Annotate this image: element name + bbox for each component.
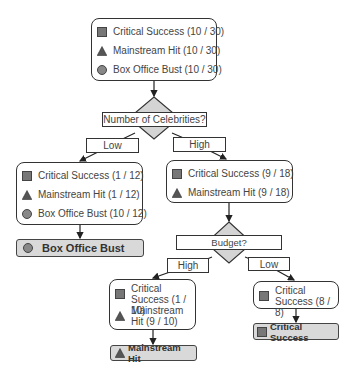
root-row-mainstream-hit: Mainstream Hit (10 / 30) <box>97 45 220 56</box>
leaf-mainstream-hit: Mainstream Hit <box>110 345 197 361</box>
triangle-icon <box>97 46 107 56</box>
square-icon <box>22 171 32 181</box>
budget-low-node: Critical Success (8 / 8) <box>253 281 339 309</box>
low-critical-success-text: Critical Success (1 / 12) <box>38 170 144 181</box>
low-celebrities-node: Critical Success (1 / 12) Mainstream Hit… <box>16 162 143 225</box>
root-box-office-bust-text: Box Office Bust (10 / 30) <box>113 64 222 75</box>
high-mainstream-hit-text: Mainstream Hit (9 / 18) <box>188 187 290 198</box>
branch-label-high: High <box>173 137 226 152</box>
high-critical-success-text: Critical Success (9 / 18) <box>188 168 294 179</box>
low-box-office-bust-text: Box Office Bust (10 / 12) <box>38 208 147 219</box>
branch-label-budget-low: Low <box>248 257 290 271</box>
low-mainstream-hit-text: Mainstream Hit (1 / 12) <box>38 189 140 200</box>
root-row-critical-success: Critical Success (10 / 30) <box>97 26 224 37</box>
low-row-critical-success: Critical Success (1 / 12) <box>22 170 144 181</box>
budget-high-mainstream-hit-text: Mainstream Hit (9 / 10) <box>131 305 187 327</box>
square-icon <box>259 291 269 301</box>
triangle-icon <box>115 348 125 358</box>
root-critical-success-text: Critical Success (10 / 30) <box>113 26 224 37</box>
triangle-icon <box>115 311 125 321</box>
circle-icon <box>23 243 33 253</box>
circle-icon <box>22 209 32 219</box>
leaf-critical-success: Critical Success <box>253 323 339 340</box>
square-icon <box>257 327 267 337</box>
leaf-mainstream-hit-label: Mainstream Hit <box>128 342 196 364</box>
square-icon <box>115 289 125 299</box>
low-row-mainstream-hit: Mainstream Hit (1 / 12) <box>22 189 140 200</box>
square-icon <box>172 169 182 179</box>
high-row-mainstream-hit: Mainstream Hit (9 / 18) <box>172 187 290 198</box>
high-row-critical-success: Critical Success (9 / 18) <box>172 168 294 179</box>
high-celebrities-node: Critical Success (9 / 18) Mainstream Hit… <box>166 160 293 203</box>
triangle-icon <box>22 190 32 200</box>
leaf-critical-success-label: Critical Success <box>270 321 338 343</box>
circle-icon <box>97 65 107 75</box>
root-row-box-office-bust: Box Office Bust (10 / 30) <box>97 64 222 75</box>
leaf-box-office-bust-label: Box Office Bust <box>42 242 125 254</box>
question-budget: Budget? <box>176 235 282 250</box>
root-mainstream-hit-text: Mainstream Hit (10 / 30) <box>113 45 220 56</box>
budget-low-row-critical-success: Critical Success (8 / 8) <box>259 285 337 318</box>
leaf-box-office-bust: Box Office Bust <box>16 239 144 257</box>
budget-high-node: Critical Success (1 / 10) Mainstream Hit… <box>109 279 196 330</box>
branch-label-low: Low <box>86 138 139 153</box>
triangle-icon <box>172 188 182 198</box>
budget-high-row-mainstream-hit: Mainstream Hit (9 / 10) <box>115 305 193 327</box>
square-icon <box>97 27 107 37</box>
question-celebrities: Number of Celebrities? <box>102 112 207 127</box>
budget-low-critical-success-text: Critical Success (8 / 8) <box>275 285 337 318</box>
root-node: Critical Success (10 / 30) Mainstream Hi… <box>91 18 217 81</box>
low-row-box-office-bust: Box Office Bust (10 / 12) <box>22 208 147 219</box>
branch-label-budget-high: High <box>167 258 209 273</box>
